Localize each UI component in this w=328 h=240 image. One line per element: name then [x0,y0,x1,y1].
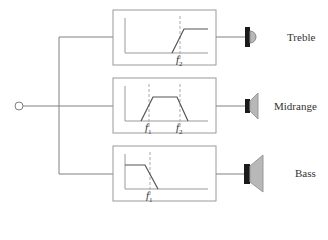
bass-label: Bass [295,167,316,179]
f2-label-midrange: f2 [176,121,183,136]
woofer-icon [244,155,263,192]
input-terminal-icon [15,102,23,110]
tweeter-icon [245,27,256,47]
midrange-speaker-icon [245,93,258,119]
f1-label-bass: f1 [146,189,153,204]
treble-label: Treble [287,31,315,43]
bass-filter-box [113,146,245,201]
f1-label-midrange: f1 [145,121,152,136]
midrange-label: Midrange [274,100,317,112]
f2-label-treble: f2 [176,53,183,68]
input-bus [15,37,113,174]
